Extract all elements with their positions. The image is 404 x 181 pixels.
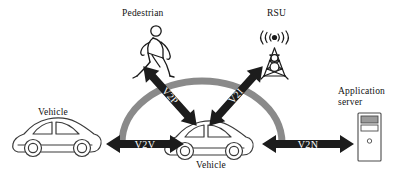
node-label-rsu: RSU	[267, 8, 286, 19]
node-label-application-server-line2: server	[338, 97, 362, 108]
node-label-vehicle-left: Vehicle	[38, 107, 68, 118]
link-v2n: V2N	[262, 135, 354, 153]
node-label-pedestrian: Pedestrian	[122, 8, 164, 19]
node-label-application-server-line1: Application	[338, 86, 385, 97]
link-label-v2n: V2N	[298, 139, 318, 150]
link-v2v: V2V	[106, 135, 184, 153]
node-label-vehicle-center: Vehicle	[196, 160, 226, 171]
v2x-diagram: V2V V2N V2P V2I Pedestrian RSU Vehicle V…	[0, 0, 404, 181]
link-label-v2v: V2V	[135, 139, 156, 150]
